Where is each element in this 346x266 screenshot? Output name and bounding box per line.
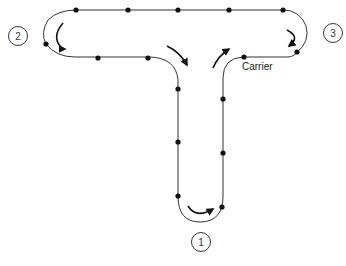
station-1-label: 1: [198, 237, 204, 248]
flow-arrow-icon: [287, 30, 295, 46]
station-2-label: 2: [15, 31, 21, 42]
flow-arrow-icon: [167, 46, 187, 65]
carrier-dot: [220, 150, 225, 155]
carrier-dot: [95, 55, 100, 60]
carrier-dot: [125, 7, 130, 12]
carrier-label: Carrier: [242, 61, 273, 72]
carrier-dot: [219, 204, 224, 209]
station-1-badge: 1: [191, 232, 211, 252]
carrier-dot: [175, 193, 180, 198]
station-2-badge: 2: [8, 26, 28, 46]
carrier-dot: [294, 49, 299, 54]
carrier-dot: [226, 7, 231, 12]
track-path: [43, 10, 307, 222]
flow-arrow-icon: [188, 206, 213, 213]
carrier-dot: [43, 41, 48, 46]
carrier-dot: [145, 55, 150, 60]
flow-arrow-icon: [57, 23, 65, 49]
station-3-label: 3: [330, 28, 336, 39]
carrier-dot: [220, 96, 225, 101]
station-3-badge: 3: [323, 23, 343, 43]
carriers: [43, 7, 299, 209]
carrier-dot: [241, 54, 246, 59]
carrier-dot: [175, 86, 180, 91]
track-diagram: [0, 0, 346, 266]
carrier-dot: [73, 7, 78, 12]
carrier-dot: [175, 7, 180, 12]
carrier-dot: [280, 7, 285, 12]
carrier-dot: [175, 139, 180, 144]
